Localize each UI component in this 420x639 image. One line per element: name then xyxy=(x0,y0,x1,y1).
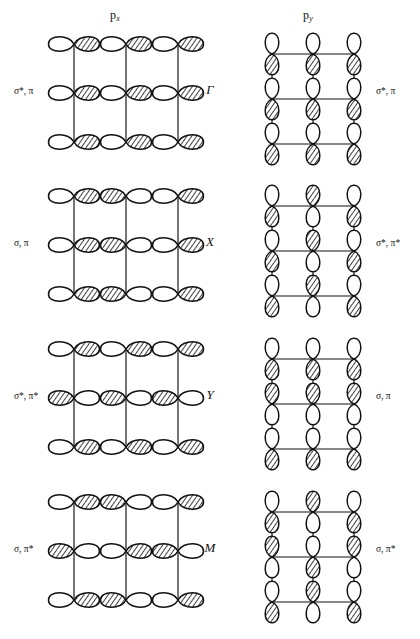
orbital-lobe xyxy=(306,144,320,165)
orbital-lobe xyxy=(306,251,320,272)
orbital-lobe xyxy=(74,189,99,204)
orbital-row: σ*, π*σ, πY xyxy=(0,333,420,483)
orbital-lobe xyxy=(74,135,99,150)
orbital-lobe xyxy=(306,338,320,359)
orbital-lobe xyxy=(347,54,361,75)
orbital-lobe xyxy=(126,495,151,510)
orbital-lobe xyxy=(306,491,320,512)
orbital-lobe xyxy=(306,512,320,533)
orbital-lobe xyxy=(74,440,99,455)
orbital-lobe xyxy=(347,359,361,380)
orbital-lobe xyxy=(265,123,279,144)
py-orbital-lattice xyxy=(258,486,368,628)
orbital-lobe xyxy=(74,593,99,608)
orbital-lobe xyxy=(153,593,178,608)
orbital-lobe xyxy=(265,557,279,578)
orbital-lobe xyxy=(74,37,99,52)
orbital-lobe xyxy=(49,495,74,510)
orbital-lobe xyxy=(306,404,320,425)
orbital-lobe xyxy=(153,189,178,204)
orbital-lobe xyxy=(126,135,151,150)
orbital-lobe xyxy=(49,135,74,150)
orbital-lobe xyxy=(153,37,178,52)
orbital-lobe xyxy=(126,342,151,357)
orbital-lobe xyxy=(347,99,361,120)
column-header-py: py xyxy=(303,8,313,23)
panel-px xyxy=(52,486,200,636)
orbital-lobe xyxy=(265,296,279,317)
orbital-lobe xyxy=(265,428,279,449)
py-subscript: y xyxy=(309,14,313,23)
kpoint-label: X xyxy=(0,234,420,250)
orbital-row: σ, πσ*, π*X xyxy=(0,180,420,330)
kpoint-label: Y xyxy=(0,387,420,403)
orbital-lobe xyxy=(49,37,74,52)
orbital-lobe xyxy=(347,581,361,602)
orbital-lobe xyxy=(74,342,99,357)
orbital-lobe xyxy=(49,342,74,357)
orbital-lobe xyxy=(153,440,178,455)
orbital-lobe xyxy=(153,287,178,302)
kpoint-label: M xyxy=(0,540,420,556)
orbital-row: σ*, πσ*, πΓ xyxy=(0,28,420,178)
panel-px xyxy=(52,180,200,330)
orbital-lobe xyxy=(101,189,126,204)
orbital-lobe xyxy=(265,581,279,602)
orbital-figure: px py σ*, πσ*, πΓσ, πσ*, π*Xσ*, π*σ, πYσ… xyxy=(0,0,420,639)
orbital-lobe xyxy=(126,440,151,455)
panel-px xyxy=(52,333,200,483)
orbital-lobe xyxy=(306,123,320,144)
orbital-lobe xyxy=(306,359,320,380)
orbital-lobe xyxy=(306,296,320,317)
orbital-lobe xyxy=(101,593,126,608)
orbital-lobe xyxy=(265,491,279,512)
orbital-lobe xyxy=(265,275,279,296)
orbital-lobe xyxy=(126,189,151,204)
py-orbital-lattice xyxy=(258,333,368,475)
orbital-lobe xyxy=(306,33,320,54)
orbital-lobe xyxy=(306,557,320,578)
orbital-lobe xyxy=(347,557,361,578)
orbital-lobe xyxy=(265,185,279,206)
orbital-lobe xyxy=(347,602,361,623)
orbital-lobe xyxy=(126,37,151,52)
orbital-lobe xyxy=(347,185,361,206)
panel-py xyxy=(258,180,368,330)
orbital-lobe xyxy=(49,287,74,302)
orbital-lobe xyxy=(178,342,203,357)
orbital-lobe xyxy=(74,495,99,510)
orbital-lobe xyxy=(178,495,203,510)
orbital-lobe xyxy=(347,275,361,296)
orbital-lobe xyxy=(265,602,279,623)
orbital-lobe xyxy=(265,206,279,227)
column-header-px: px xyxy=(110,8,120,23)
orbital-lobe xyxy=(101,342,126,357)
panel-py xyxy=(258,486,368,636)
orbital-lobe xyxy=(101,495,126,510)
py-orbital-lattice xyxy=(258,28,368,170)
orbital-lobe xyxy=(101,287,126,302)
orbital-lobe xyxy=(126,593,151,608)
orbital-lobe xyxy=(306,54,320,75)
orbital-lobe xyxy=(265,99,279,120)
orbital-lobe xyxy=(153,135,178,150)
orbital-lobe xyxy=(306,206,320,227)
orbital-lobe xyxy=(178,287,203,302)
orbital-lobe xyxy=(153,342,178,357)
panel-py xyxy=(258,28,368,178)
orbital-lobe xyxy=(49,189,74,204)
panel-py xyxy=(258,333,368,483)
orbital-lobe xyxy=(306,428,320,449)
orbital-lobe xyxy=(178,37,203,52)
orbital-lobe xyxy=(347,404,361,425)
orbital-lobe xyxy=(265,54,279,75)
orbital-lobe xyxy=(49,440,74,455)
orbital-lobe xyxy=(101,135,126,150)
py-orbital-lattice xyxy=(258,180,368,322)
orbital-lobe xyxy=(178,189,203,204)
orbital-lobe xyxy=(347,123,361,144)
orbital-lobe xyxy=(347,449,361,470)
orbital-lobe xyxy=(74,287,99,302)
orbital-lobe xyxy=(178,593,203,608)
orbital-lobe xyxy=(306,185,320,206)
